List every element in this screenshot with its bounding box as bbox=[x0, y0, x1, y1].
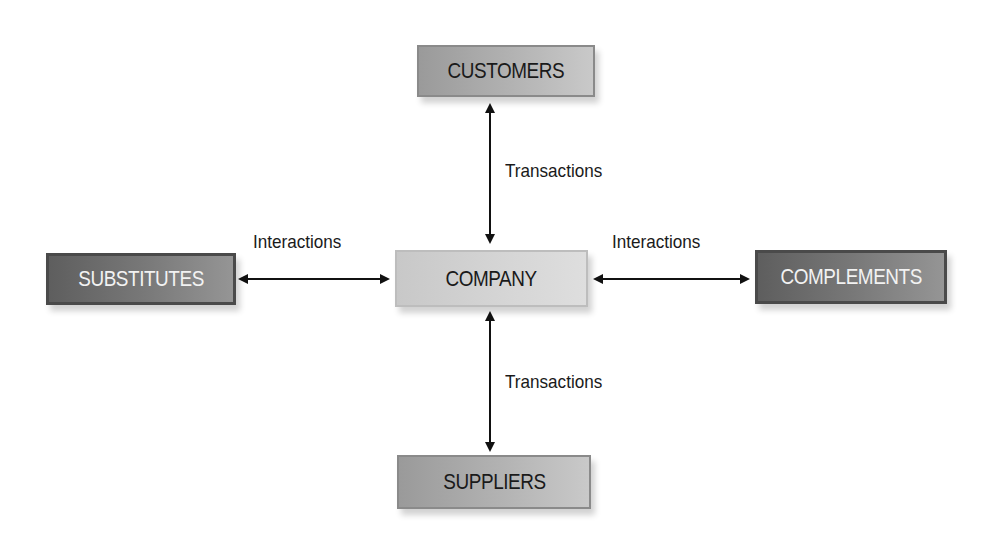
node-company-label: COMPANY bbox=[446, 266, 537, 292]
node-complements: COMPLEMENTS bbox=[755, 250, 947, 304]
edge-label-right: Interactions bbox=[612, 231, 710, 253]
node-customers: CUSTOMERS bbox=[417, 45, 595, 97]
node-substitutes-label: SUBSTITUTES bbox=[78, 266, 204, 292]
node-complements-label: COMPLEMENTS bbox=[780, 264, 921, 290]
node-suppliers-label: SUPPLIERS bbox=[443, 469, 545, 495]
node-customers-label: CUSTOMERS bbox=[448, 58, 565, 84]
node-suppliers: SUPPLIERS bbox=[397, 455, 591, 509]
node-company: COMPANY bbox=[395, 250, 588, 307]
edge-label-bottom: Transactions bbox=[505, 371, 613, 393]
edge-label-top: Transactions bbox=[505, 160, 613, 182]
edge-label-left: Interactions bbox=[253, 231, 351, 253]
node-substitutes: SUBSTITUTES bbox=[46, 253, 236, 305]
